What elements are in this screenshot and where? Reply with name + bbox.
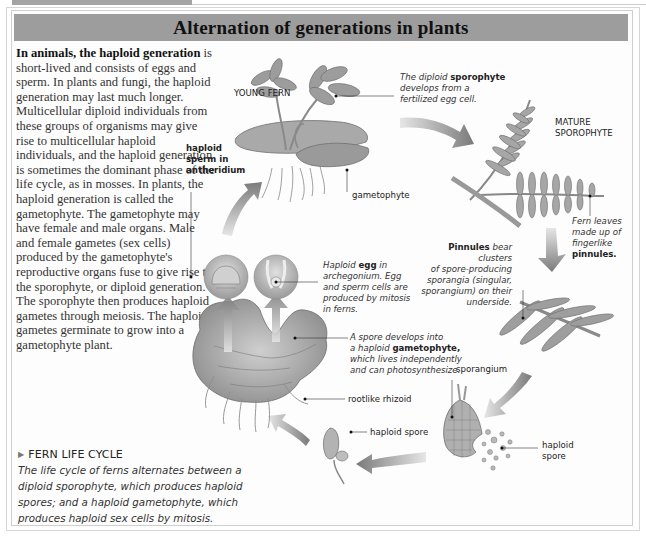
label-rootlike-rhizoid: rootlike rhizoid — [348, 394, 412, 405]
label-spore-develops: A spore develops into a haploid gametoph… — [350, 332, 462, 376]
label-mature-sporophyte: MATURESPOROPHYTE — [555, 117, 613, 139]
label-sporophyte-note: The diploid sporophyte develops from a f… — [400, 72, 505, 105]
label-young-fern: YOUNG FERN — [234, 88, 290, 99]
label-haploid-spore-left: haploid spore — [370, 427, 428, 438]
cycle-arrow-6 — [222, 182, 262, 236]
cycle-arrow-3 — [484, 372, 532, 418]
gametophyte-prothallus-illustration — [193, 299, 327, 432]
label-gametophyte: gametophyte — [352, 190, 410, 201]
cycle-arrow-5 — [268, 414, 310, 446]
cycle-arrow-2 — [538, 228, 566, 272]
antheridium-closeup — [204, 255, 248, 299]
label-haploid-egg: Haploid egg in archegonium. Egg and sper… — [323, 260, 410, 315]
label-sporangium: sporangium — [456, 364, 507, 375]
label-haploid-sperm: haploidsperm inantheridium — [186, 143, 245, 176]
label-fern-leaves: Fern leavesmade up offingerlikepinnules. — [572, 216, 622, 260]
young-fern-illustration — [235, 57, 369, 202]
archegonium-closeup — [254, 255, 298, 299]
pinnule-illustration — [497, 296, 614, 355]
cycle-arrow-1 — [400, 118, 474, 148]
sporangium-illustration — [444, 384, 513, 470]
label-haploid-spore-right: haploidspore — [542, 440, 574, 462]
germinating-spore-illustration — [323, 428, 348, 484]
cycle-arrow-4 — [356, 452, 426, 474]
label-pinnules: Pinnules bear clusters of spore-producin… — [420, 242, 512, 308]
